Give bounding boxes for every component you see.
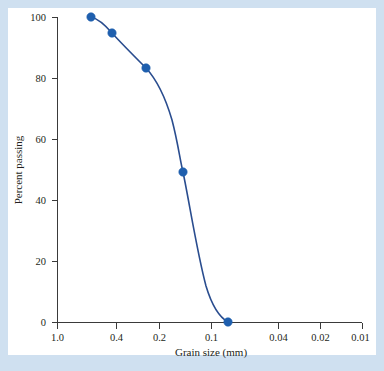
x-tick-label-0.02: 0.02: [311, 332, 329, 343]
y-axis-ticks: 0 20 40 60 80 100: [30, 12, 57, 328]
y-tick-label-40: 40: [36, 195, 47, 206]
data-point-5: [224, 318, 232, 326]
x-tick-label-0.04: 0.04: [269, 332, 288, 343]
y-tick-label-0: 0: [41, 317, 46, 328]
data-point-1: [87, 13, 95, 21]
data-point-2: [108, 29, 116, 37]
data-point-3: [142, 64, 150, 72]
grain-size-curve: [91, 17, 228, 322]
y-tick-label-20: 20: [36, 256, 47, 267]
data-point-4: [179, 168, 187, 176]
x-tick-label-1.0: 1.0: [51, 332, 64, 343]
x-axis-ticks: 1.0 0.4 0.2 0.1 0.04 0.02 0.01: [51, 323, 370, 344]
x-tick-label-0.1: 0.1: [205, 332, 218, 343]
grain-size-distribution-chart: 0 20 40 60 80 100 1.0 0.4 0.2 0.1 0.04 0…: [0, 0, 384, 371]
x-tick-label-0.4: 0.4: [110, 332, 124, 343]
x-tick-label-0.2: 0.2: [153, 332, 166, 343]
y-tick-label-100: 100: [30, 12, 46, 23]
y-axis-title: Percent passing: [12, 135, 24, 204]
y-tick-label-80: 80: [36, 73, 47, 84]
figure-container: 0 20 40 60 80 100 1.0 0.4 0.2 0.1 0.04 0…: [0, 0, 384, 371]
axes-group: [57, 17, 362, 323]
data-markers: [87, 13, 232, 326]
x-axis-title: Grain size (mm): [175, 346, 247, 359]
x-tick-label-0.01: 0.01: [351, 332, 369, 343]
y-tick-label-60: 60: [36, 134, 47, 145]
